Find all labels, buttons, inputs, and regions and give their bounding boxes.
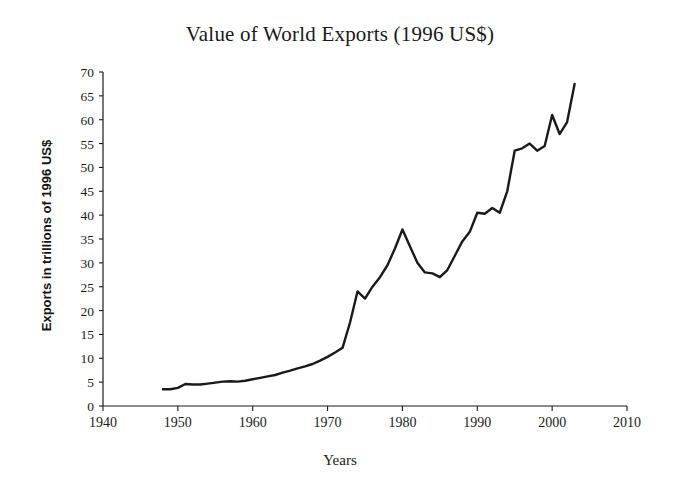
x-tick-label: 2000 [538, 415, 566, 430]
x-tick-label: 1950 [164, 415, 192, 430]
y-tick-label: 10 [81, 351, 95, 366]
x-tick-label: 1960 [239, 415, 267, 430]
y-tick-label: 45 [81, 184, 95, 199]
y-tick-label: 0 [87, 399, 94, 414]
data-series-line [163, 84, 575, 389]
x-axis-ticks: 19401950196019701980199020002010 [89, 406, 641, 430]
y-tick-label: 15 [81, 327, 95, 342]
chart-page: Value of World Exports (1996 US$) Export… [0, 0, 680, 493]
y-tick-label: 65 [81, 89, 95, 104]
x-tick-label: 1990 [463, 415, 491, 430]
y-tick-label: 30 [81, 256, 95, 271]
x-tick-label: 1980 [388, 415, 416, 430]
y-tick-label: 20 [81, 304, 95, 319]
y-tick-label: 5 [87, 375, 94, 390]
x-tick-label: 1970 [314, 415, 342, 430]
y-tick-label: 70 [81, 65, 95, 80]
y-tick-label: 35 [81, 232, 95, 247]
y-axis-ticks: 0510152025303540455055606570 [81, 65, 104, 414]
y-tick-label: 25 [81, 280, 95, 295]
x-tick-label: 2010 [613, 415, 641, 430]
y-tick-label: 55 [81, 137, 95, 152]
y-tick-label: 50 [81, 160, 95, 175]
y-tick-label: 40 [81, 208, 95, 223]
chart-plot-area: 0510152025303540455055606570 19401950196… [0, 0, 680, 493]
x-tick-label: 1940 [89, 415, 117, 430]
y-tick-label: 60 [81, 113, 95, 128]
